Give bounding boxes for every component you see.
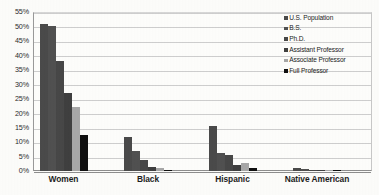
y-axis-tick-label: 10% (0, 138, 29, 145)
bar (233, 165, 241, 171)
y-axis-tick-label: 15% (0, 124, 29, 131)
bar (48, 26, 56, 171)
bar (164, 170, 172, 171)
legend-swatch-icon (284, 16, 288, 20)
bar (148, 167, 156, 171)
legend-label: Associate Professor (289, 57, 345, 64)
legend-label: Assistant Professor (289, 47, 344, 54)
grouped-bar-chart: 0%5%10%15%20%25%30%35%40%45%50%55% Women… (0, 0, 379, 195)
legend-item: Full Professor (284, 66, 376, 76)
bar (80, 135, 88, 171)
legend-label: B.S. (289, 25, 301, 32)
bar (325, 170, 333, 171)
bar (56, 61, 64, 171)
x-axis: WomenBlackHispanicNative American (34, 174, 372, 188)
legend-swatch-icon (284, 37, 288, 41)
y-axis-tick-label: 55% (0, 8, 29, 15)
y-axis-tick-label: 20% (0, 110, 29, 117)
bar (225, 155, 233, 171)
bar (209, 126, 217, 171)
gridline (34, 172, 371, 173)
bar (132, 151, 140, 171)
chart-legend: U.S. PopulationB.S.Ph.D.Assistant Profes… (284, 13, 376, 77)
bar (217, 153, 225, 172)
bar (140, 160, 148, 171)
legend-swatch-icon (284, 27, 288, 31)
legend-swatch-icon (284, 59, 288, 63)
bar (72, 107, 80, 171)
bar (241, 163, 249, 171)
legend-swatch-icon (284, 48, 288, 52)
legend-label: Ph.D. (289, 36, 305, 43)
y-axis-tick-label: 40% (0, 52, 29, 59)
legend-swatch-icon (284, 69, 288, 73)
y-axis-tick-label: 50% (0, 23, 29, 30)
legend-item: B.S. (284, 24, 376, 34)
legend-item: Assistant Professor (284, 45, 376, 55)
bar-group (203, 12, 288, 171)
bar (301, 169, 309, 171)
bar (64, 93, 72, 171)
bar (309, 170, 317, 171)
x-axis-tick-label: Hispanic (188, 174, 278, 184)
legend-label: U.S. Population (289, 15, 333, 22)
y-axis-tick-label: 35% (0, 66, 29, 73)
bar (40, 24, 48, 171)
bar-group (34, 12, 119, 171)
bar (124, 137, 132, 171)
legend-item: Ph.D. (284, 34, 376, 44)
bar (249, 168, 257, 171)
x-axis-tick-label: Women (19, 174, 109, 184)
bar (317, 170, 325, 171)
legend-label: Full Professor (289, 68, 328, 75)
bar (333, 170, 341, 171)
y-axis-tick-label: 25% (0, 95, 29, 102)
x-axis-tick-label: Black (103, 174, 193, 184)
legend-item: U.S. Population (284, 13, 376, 23)
bar-group (119, 12, 204, 171)
legend-item: Associate Professor (284, 56, 376, 66)
y-axis-tick-label: 45% (0, 37, 29, 44)
bar (156, 168, 164, 171)
y-axis-tick-label: 30% (0, 81, 29, 88)
x-axis-tick-label: Native American (272, 174, 362, 184)
bar (293, 168, 301, 171)
y-axis-tick-label: 5% (0, 153, 29, 160)
